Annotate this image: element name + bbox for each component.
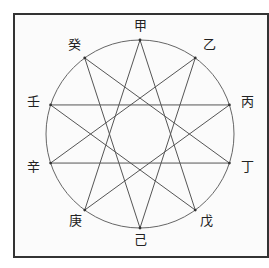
vertex-dot <box>228 162 231 165</box>
star-line <box>85 58 140 228</box>
stem-label-jia: 甲 <box>132 19 148 33</box>
vertex-dot <box>83 209 86 212</box>
star-line <box>85 105 230 210</box>
outer-circle <box>46 40 234 228</box>
stem-label-ren: 壬 <box>25 95 41 109</box>
stem-label-wu: 戊 <box>198 214 214 228</box>
stem-label-ji: 己 <box>132 233 148 247</box>
star-line <box>51 58 196 163</box>
vertex-dot <box>194 209 197 212</box>
vertex-dot <box>49 104 52 107</box>
star-line <box>140 58 195 228</box>
vertex-dot <box>83 57 86 60</box>
stem-label-xin: 辛 <box>25 160 41 174</box>
stem-label-yi: 乙 <box>201 38 217 52</box>
star-lines <box>51 40 230 228</box>
star-line <box>51 105 196 210</box>
stem-label-gui: 癸 <box>66 38 82 52</box>
star-line <box>85 58 230 163</box>
vertex-dot <box>139 39 142 42</box>
vertex-points <box>49 39 231 230</box>
star-line <box>140 40 195 210</box>
stem-label-geng: 庚 <box>67 214 83 228</box>
stem-label-ding: 丁 <box>239 160 255 174</box>
vertex-dot <box>49 162 52 165</box>
stem-label-bing: 丙 <box>239 95 255 109</box>
vertex-dot <box>139 227 142 230</box>
star-line <box>85 40 140 210</box>
vertex-dot <box>194 57 197 60</box>
vertex-dot <box>228 104 231 107</box>
stems-star-diagram <box>0 0 269 268</box>
